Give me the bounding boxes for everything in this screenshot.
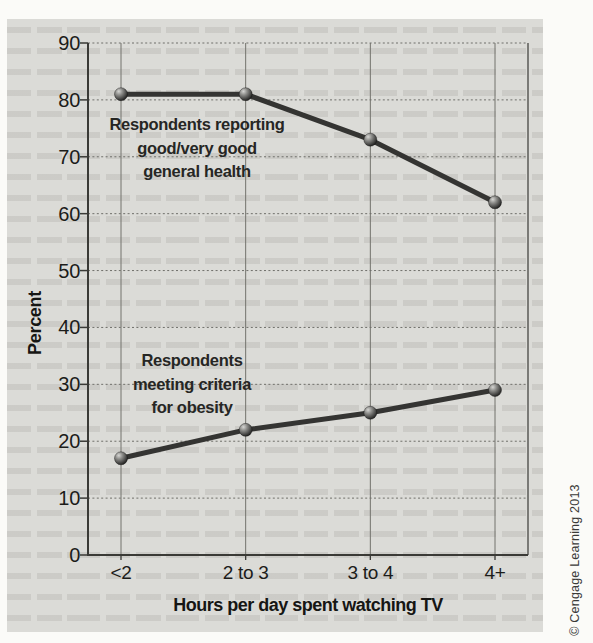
- y-tick-label: 0: [16, 543, 80, 567]
- y-tick-label: 80: [16, 88, 80, 112]
- copyright-credit: © Cengage Learning 2013: [567, 480, 583, 640]
- x-tick-label: 2 to 3: [201, 561, 291, 585]
- data-point: [115, 88, 128, 101]
- y-tick-label: 70: [16, 145, 80, 169]
- y-tick-label: 20: [16, 429, 80, 453]
- series-label-obesity: Respondents meeting criteria for obesity: [72, 349, 312, 420]
- y-axis-title: Percent: [25, 265, 45, 381]
- x-tick-label: <2: [76, 561, 166, 585]
- chart-svg: [0, 0, 593, 643]
- data-point: [239, 423, 252, 436]
- data-point: [489, 384, 502, 397]
- data-point: [364, 406, 377, 419]
- x-tick-label: 4+: [450, 561, 540, 585]
- y-tick-label: 90: [16, 31, 80, 55]
- x-axis-title: Hours per day spent watching TV: [158, 594, 458, 616]
- data-point: [115, 452, 128, 465]
- data-point: [489, 196, 502, 209]
- data-point: [364, 133, 377, 146]
- data-point: [239, 88, 252, 101]
- y-tick-label: 10: [16, 486, 80, 510]
- figure-scan: 9080706050403020100 <22 to 33 to 44+ Per…: [0, 0, 593, 643]
- x-tick-label: 3 to 4: [325, 561, 415, 585]
- series-label-health: Respondents reporting good/very good gen…: [77, 113, 317, 184]
- y-tick-label: 60: [16, 202, 80, 226]
